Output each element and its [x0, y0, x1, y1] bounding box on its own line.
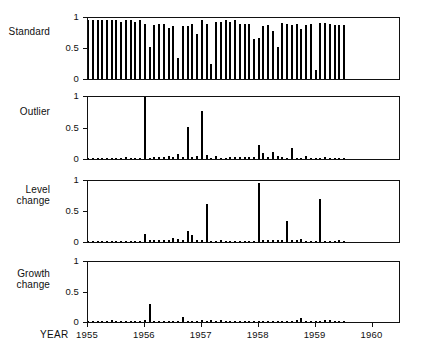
- bar: [281, 321, 283, 322]
- x-axis-title: YEAR: [40, 329, 68, 340]
- bar: [334, 321, 336, 322]
- x-tick-mark: [258, 323, 259, 327]
- x-tick-label: 1958: [241, 329, 275, 340]
- bar: [225, 321, 227, 322]
- panel-growth_change: 10.50Growth change: [0, 0, 445, 353]
- bar: [191, 321, 193, 322]
- x-tick-label: 1960: [355, 329, 389, 340]
- bar: [120, 321, 122, 322]
- x-tick-mark: [87, 323, 88, 327]
- bar: [277, 321, 279, 322]
- bar: [196, 321, 198, 322]
- bar: [286, 321, 288, 322]
- bar: [220, 320, 222, 322]
- bar: [253, 321, 255, 322]
- bar: [201, 320, 203, 322]
- bar: [168, 321, 170, 322]
- bar: [111, 320, 113, 322]
- bar: [144, 320, 146, 322]
- bar: [149, 304, 151, 322]
- bar: [267, 321, 269, 322]
- bar: [329, 320, 331, 322]
- bar: [305, 321, 307, 322]
- bar: [324, 320, 326, 322]
- bar: [338, 321, 340, 322]
- bar: [210, 320, 212, 322]
- panel-label-growth_change: Growth change: [4, 268, 50, 290]
- bars-growth_change: [88, 262, 399, 322]
- x-tick-mark: [201, 323, 202, 327]
- bar: [234, 321, 236, 322]
- bar: [315, 321, 317, 322]
- bar: [153, 321, 155, 322]
- bar: [106, 321, 108, 322]
- y-tick-mark: [83, 261, 87, 262]
- bar: [187, 321, 189, 322]
- bar: [248, 321, 250, 322]
- panel-frame-growth_change: [87, 261, 400, 323]
- bar: [343, 321, 345, 322]
- y-tick-label: 0: [53, 316, 79, 327]
- bar: [272, 321, 274, 322]
- bar: [101, 321, 103, 322]
- bar: [177, 321, 179, 322]
- bar: [291, 321, 293, 322]
- bar: [115, 321, 117, 322]
- bar: [182, 317, 184, 322]
- x-tick-label: 1955: [70, 329, 104, 340]
- bar: [319, 321, 321, 322]
- x-tick-mark: [144, 323, 145, 327]
- bar: [262, 321, 264, 322]
- x-tick-label: 1957: [184, 329, 218, 340]
- bar: [206, 321, 208, 322]
- bar: [172, 321, 174, 322]
- x-tick-mark: [315, 323, 316, 327]
- bar: [88, 321, 89, 322]
- bar: [97, 321, 99, 322]
- bar: [163, 321, 165, 322]
- y-tick-mark: [83, 292, 87, 293]
- probability-panel-figure: 10.50Standard10.50Outlier10.50Level chan…: [0, 0, 445, 353]
- bar: [244, 321, 246, 322]
- bar: [125, 321, 127, 322]
- x-tick-label: 1959: [298, 329, 332, 340]
- bar: [310, 321, 312, 322]
- x-tick-mark: [372, 323, 373, 327]
- bar: [215, 321, 217, 322]
- bar: [92, 321, 94, 322]
- bar: [158, 321, 160, 322]
- bar: [300, 318, 302, 322]
- y-tick-label: 0.5: [53, 286, 79, 297]
- bar: [139, 321, 141, 322]
- x-tick-label: 1956: [127, 329, 161, 340]
- bar: [229, 321, 231, 322]
- bar: [296, 320, 298, 322]
- bar: [258, 321, 260, 322]
- bar: [130, 321, 132, 322]
- y-tick-label: 1: [53, 255, 79, 266]
- bar: [134, 321, 136, 322]
- bar: [239, 321, 241, 322]
